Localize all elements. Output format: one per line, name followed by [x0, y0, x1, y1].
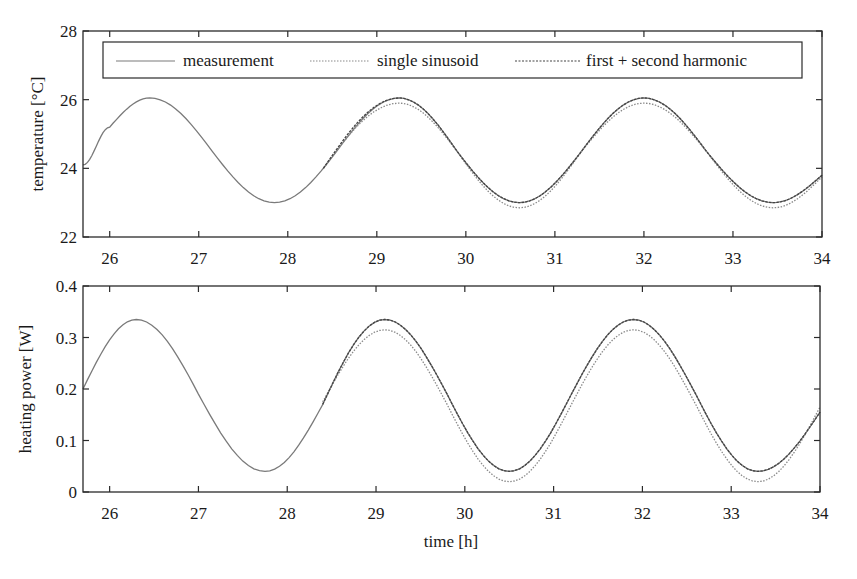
x-tick-label: 29 — [368, 249, 385, 268]
y-tick-label: 0 — [69, 483, 78, 502]
y-tick-label: 22 — [60, 228, 77, 247]
x-tick-label: 27 — [190, 504, 208, 523]
y-tick-label: 0.2 — [56, 380, 77, 399]
x-tick-label: 31 — [546, 249, 563, 268]
x-tick-label: 30 — [456, 504, 473, 523]
y-tick-label: 26 — [60, 91, 77, 110]
x-tick-label: 28 — [279, 504, 296, 523]
x-tick-label: 33 — [723, 504, 740, 523]
heating-power-curves — [83, 320, 820, 482]
time-xlabel: time [h] — [424, 532, 478, 551]
x-tick-label: 26 — [101, 249, 118, 268]
series-single-sinusoid — [323, 103, 822, 208]
legend: measurement single sinusoid first + seco… — [103, 42, 802, 78]
temperature-panel: 26272829303132333422242628 temperature [… — [28, 22, 831, 268]
series-single-sinusoid — [323, 330, 820, 482]
y-tick-label: 28 — [60, 22, 77, 41]
heating-power-panel: 26272829303132333400.10.20.30.4 heating … — [16, 277, 829, 551]
x-tick-label: 27 — [190, 249, 208, 268]
heating-power-ticks: 26272829303132333400.10.20.30.4 — [56, 277, 829, 523]
y-tick-label: 24 — [60, 159, 78, 178]
x-tick-label: 32 — [634, 504, 651, 523]
series-measurement — [83, 98, 822, 203]
x-tick-label: 32 — [635, 249, 652, 268]
temperature-curves — [83, 98, 822, 208]
x-tick-label: 31 — [545, 504, 562, 523]
y-tick-label: 0.3 — [56, 329, 77, 348]
x-tick-label: 34 — [812, 504, 830, 523]
heating-power-axes-frame — [83, 286, 820, 492]
temperature-ylabel: temperature [°C] — [28, 77, 47, 192]
x-tick-label: 33 — [724, 249, 741, 268]
x-tick-label: 26 — [101, 504, 118, 523]
legend-measurement-label: measurement — [183, 51, 274, 70]
heating-power-ylabel: heating power [W] — [16, 325, 35, 453]
series-first-second-harmonic — [323, 98, 822, 203]
y-tick-label: 0.1 — [56, 432, 77, 451]
y-tick-label: 0.4 — [56, 277, 78, 296]
x-tick-label: 34 — [814, 249, 832, 268]
series-measurement — [83, 320, 820, 472]
figure: 26272829303132333422242628 temperature [… — [0, 0, 857, 579]
x-tick-label: 28 — [279, 249, 296, 268]
x-tick-label: 30 — [457, 249, 474, 268]
legend-harmonic-label: first + second harmonic — [586, 51, 748, 70]
x-tick-label: 29 — [368, 504, 385, 523]
legend-single-sinusoid-label: single sinusoid — [377, 51, 479, 70]
